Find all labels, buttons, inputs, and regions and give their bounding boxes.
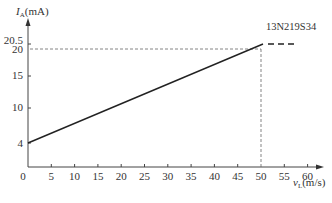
series-annotation: 13N219S34 [266,21,317,32]
svg-text:25: 25 [139,170,151,182]
svg-text:10: 10 [69,170,81,182]
svg-text:4: 4 [18,137,24,149]
svg-text:5: 5 [49,170,55,182]
x-axis-arrow-icon [316,165,324,170]
chart: IA(mA) vL(m/s) 4 10 15 20 20.5 0 5 10 15 [0,0,332,203]
svg-text:20.5: 20.5 [4,34,24,46]
svg-text:0: 0 [20,170,26,182]
y-axis-label: IA(mA) [15,5,49,19]
svg-text:40: 40 [209,170,221,182]
svg-text:20: 20 [116,170,128,182]
svg-text:15: 15 [92,170,104,182]
svg-text:35: 35 [186,170,198,182]
svg-text:30: 30 [162,170,174,182]
svg-text:50: 50 [256,170,268,182]
svg-text:60: 60 [302,170,314,182]
svg-text:45: 45 [232,170,244,182]
svg-text:15: 15 [12,69,24,81]
x-tick-labels: 0 5 10 15 20 25 30 35 40 45 50 55 60 [20,170,313,182]
series-line-13N219S34 [28,44,263,143]
y-axis-arrow-icon [26,18,31,26]
y-tick-labels: 4 10 15 20 20.5 [4,34,24,149]
svg-text:10: 10 [12,101,24,113]
svg-text:55: 55 [279,170,291,182]
